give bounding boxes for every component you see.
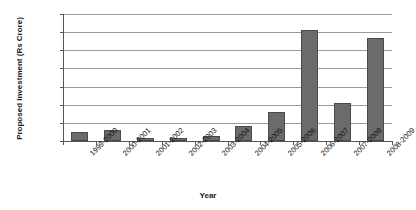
gridline [63,32,392,33]
x-axis-category-label: 2001-2002 [154,151,160,157]
x-axis-category-label: 2005-2006 [286,151,292,157]
x-axis-category-label: 2002-2003 [187,151,193,157]
y-axis-title: Proposed Investment (Rs Crore) [15,4,24,154]
plot-area [63,14,392,141]
bar-chart: Proposed Investment (Rs Crore) 70,00060,… [0,0,416,210]
gridline [63,50,392,51]
bar [301,30,318,141]
x-axis-category-label: 2004-2005 [253,151,259,157]
gridline [63,68,392,69]
gridline [63,87,392,88]
x-axis-category-label: 2008-2009 [384,151,390,157]
x-axis-title: Year [0,191,416,200]
gridline [63,14,392,15]
y-axis-line [63,14,64,141]
x-axis-category-label: 2000-2001 [121,151,127,157]
x-axis-tick-mark [63,141,64,145]
x-axis-category-label: 2006-2007 [319,151,325,157]
x-axis-category-label: 2003-2004 [220,151,226,157]
x-axis-category-label: 1999-2000 [88,151,94,157]
bar [367,38,384,141]
bar [71,132,88,141]
x-axis-category-label: 2007-2008 [351,151,357,157]
